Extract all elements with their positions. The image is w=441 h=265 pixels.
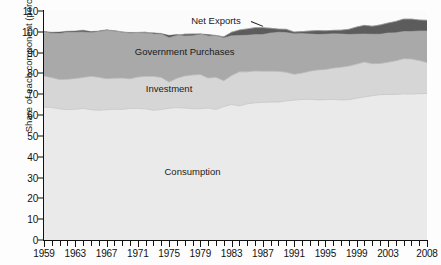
x-tickmark-1977	[185, 241, 186, 246]
x-tickmark-1999	[357, 241, 358, 247]
net-exports-label: Net Exports	[191, 15, 241, 26]
y-axis-tick-labels: 0102030405060708090100110	[0, 0, 38, 265]
y-tick-40: 40	[27, 151, 38, 162]
x-tickmark-1998	[349, 241, 350, 246]
x-tickmark-1997	[341, 241, 342, 246]
area-consumption	[44, 93, 427, 240]
x-tickmark-2007	[419, 241, 420, 246]
x-tick-label-1991: 1991	[283, 248, 304, 259]
consumption-label: Consumption	[165, 166, 221, 177]
x-tickmark-1985	[247, 241, 248, 246]
x-tickmark-1964	[83, 241, 84, 246]
x-tick-label-1999: 1999	[346, 248, 367, 259]
x-tick-label-2008: 2008	[416, 248, 437, 259]
investment-label: Investment	[146, 83, 192, 94]
x-tickmark-1973	[153, 241, 154, 246]
x-tickmark-1983	[232, 241, 233, 247]
x-tickmark-1987	[263, 241, 264, 247]
x-tickmark-2008	[427, 241, 428, 247]
x-tick-label-1987: 1987	[252, 248, 273, 259]
x-tickmark-1961	[60, 241, 61, 246]
x-tickmark-1993	[310, 241, 311, 246]
x-tickmark-1991	[294, 241, 295, 247]
x-tickmark-1965	[91, 241, 92, 246]
x-tickmark-1976	[177, 241, 178, 246]
x-tick-label-1983: 1983	[221, 248, 242, 259]
x-tickmark-1986	[255, 241, 256, 246]
x-tickmark-1959	[44, 241, 45, 247]
y-tick-80: 80	[27, 68, 38, 79]
x-tickmark-1967	[107, 241, 108, 247]
x-tickmark-1962	[67, 241, 68, 246]
x-tick-label-1995: 1995	[315, 248, 336, 259]
y-tick-60: 60	[27, 110, 38, 121]
x-tickmark-2003	[388, 241, 389, 247]
x-tickmark-1982	[224, 241, 225, 246]
x-tickmark-1970	[130, 241, 131, 246]
y-tick-30: 30	[27, 172, 38, 183]
y-tick-90: 90	[27, 47, 38, 58]
x-tickmark-1963	[75, 241, 76, 247]
x-tickmark-1971	[138, 241, 139, 247]
x-tick-label-2003: 2003	[377, 248, 398, 259]
x-tick-label-1979: 1979	[190, 248, 211, 259]
x-tickmark-1978	[193, 241, 194, 246]
x-tickmark-1980	[208, 241, 209, 246]
y-tick-10: 10	[27, 214, 38, 225]
chart-root: Share of each component (percent) 010203…	[0, 0, 441, 265]
x-tickmark-1972	[146, 241, 147, 246]
stacked-area-svg	[44, 11, 427, 240]
x-tickmark-1984	[239, 241, 240, 246]
x-tick-label-1967: 1967	[96, 248, 117, 259]
x-tickmark-2002	[380, 241, 381, 246]
x-tickmark-2004	[396, 241, 397, 246]
x-tickmark-1979	[200, 241, 201, 247]
x-tickmark-1975	[169, 241, 170, 247]
x-tick-label-1959: 1959	[33, 248, 54, 259]
x-tick-label-1975: 1975	[158, 248, 179, 259]
x-tickmark-1994	[318, 241, 319, 246]
y-tick-70: 70	[27, 89, 38, 100]
x-tickmark-1989	[278, 241, 279, 246]
x-tickmark-1968	[114, 241, 115, 246]
x-tickmark-1995	[325, 241, 326, 247]
y-tick-100: 100	[22, 26, 38, 37]
plot-area	[44, 11, 427, 240]
x-tickmark-1981	[216, 241, 217, 246]
x-tickmark-1960	[52, 241, 53, 246]
x-tickmark-1988	[271, 241, 272, 246]
government-purchases-label: Government Purchases	[135, 45, 235, 56]
x-tickmark-1996	[333, 241, 334, 246]
y-tick-20: 20	[27, 193, 38, 204]
x-tickmark-2006	[411, 241, 412, 246]
x-tickmark-1974	[161, 241, 162, 246]
x-tickmark-1969	[122, 241, 123, 246]
x-tick-label-1971: 1971	[127, 248, 148, 259]
x-tickmark-1990	[286, 241, 287, 246]
x-tickmark-1992	[302, 241, 303, 246]
y-tick-50: 50	[27, 130, 38, 141]
x-tickmark-2000	[364, 241, 365, 246]
x-tickmark-2001	[372, 241, 373, 246]
x-tick-label-1963: 1963	[65, 248, 86, 259]
x-tickmark-2005	[404, 241, 405, 246]
y-tick-110: 110	[23, 6, 38, 17]
x-tickmark-1966	[99, 241, 100, 246]
